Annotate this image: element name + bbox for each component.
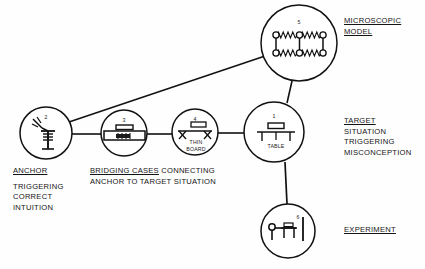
edge-anchor-to-microscopic bbox=[66, 55, 268, 123]
node-number-1: 1 bbox=[264, 113, 284, 119]
label-microscopic-line1: MICROSCOPIC bbox=[344, 16, 401, 27]
label-anchor-line3: CORRECT bbox=[13, 192, 64, 203]
label-target-line1: TARGET bbox=[344, 116, 411, 127]
label-bridging-line2: ANCHOR TO TARGET SITUATION bbox=[90, 177, 216, 188]
label-target-line2: SITUATION bbox=[344, 127, 411, 138]
node-experiment[interactable] bbox=[261, 204, 315, 258]
label-target-line4: MISCONCEPTION bbox=[344, 148, 411, 159]
node-microscopic-model[interactable] bbox=[261, 5, 337, 81]
label-experiment-line1: EXPERIMENT bbox=[344, 225, 396, 236]
label-bridging-line1: BRIDGING CASES CONNECTING bbox=[90, 166, 216, 177]
label-microscopic-model: MICROSCOPIC MODEL bbox=[344, 16, 401, 37]
label-anchor-line1: ANCHOR bbox=[13, 166, 64, 177]
node-number-2: 2 bbox=[36, 114, 56, 120]
node-number-6: 6 bbox=[288, 214, 308, 220]
node-number-3: 3 bbox=[114, 117, 134, 123]
label-bridging-cases: BRIDGING CASES CONNECTING ANCHOR TO TARG… bbox=[90, 166, 216, 187]
node-number-5: 5 bbox=[289, 19, 309, 25]
label-experiment: EXPERIMENT bbox=[344, 225, 396, 236]
node-caption-thin: THIN bbox=[173, 139, 219, 145]
node-target-situation[interactable] bbox=[244, 102, 304, 162]
label-anchor-line2: TRIGGERING bbox=[13, 182, 64, 193]
label-anchor-line4: INTUITION bbox=[13, 203, 64, 214]
label-microscopic-line2: MODEL bbox=[344, 27, 401, 38]
label-anchor: ANCHOR TRIGGERING CORRECT INTUITION bbox=[13, 166, 64, 213]
label-bridging-underlined: BRIDGING CASES bbox=[90, 166, 159, 175]
node-caption-table: TABLE bbox=[253, 143, 299, 149]
label-target-situation: TARGET SITUATION TRIGGERING MISCONCEPTIO… bbox=[344, 116, 411, 158]
node-number-4: 4 bbox=[185, 116, 205, 122]
edge-microscopic-to-target bbox=[287, 81, 292, 103]
diagram-canvas: 1 2 3 4 5 6 TABLE THIN BOARD MICROSCOPIC… bbox=[0, 0, 425, 269]
node-circle bbox=[261, 204, 315, 258]
label-target-line3: TRIGGERING bbox=[344, 137, 411, 148]
label-bridging-plain: CONNECTING bbox=[159, 166, 215, 175]
node-caption-board: BOARD bbox=[173, 146, 219, 152]
edge-target-to-experiment bbox=[285, 162, 287, 204]
